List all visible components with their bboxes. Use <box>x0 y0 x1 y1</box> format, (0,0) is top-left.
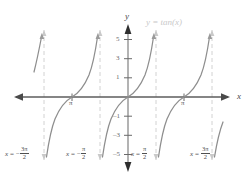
x-tick-label-pos-pi: π <box>181 100 185 107</box>
tangent-branch-far-left-tail <box>34 37 42 72</box>
asymptote-label-neg-3pi-2-numerator: 3π <box>20 146 29 153</box>
asymptote-label-neg-3pi-2-var: x <box>5 150 8 158</box>
function-label: y = tan(x) <box>146 18 182 27</box>
y-axis-arrow-down <box>125 162 132 172</box>
asymptote-label-pos-3pi-2-fraction: 3π 2 <box>201 146 210 161</box>
x-axis-arrow-left <box>14 93 23 101</box>
asymptote-label-pos-3pi-2-var: x <box>190 150 193 158</box>
asymptote-label-neg-pi-2-eq: = <box>71 150 75 158</box>
asymptote-label-pos-pi-2-denominator: 2 <box>142 153 147 161</box>
asymptote-label-pos-pi-2-fraction: π 2 <box>142 146 147 161</box>
asymptote-label-pos-pi-2: x= π 2 <box>131 146 147 161</box>
asymptote-label-neg-3pi-2-denominator: 2 <box>20 153 29 161</box>
y-tick-label-3: 3 <box>116 55 120 62</box>
asymptote-label-pos-3pi-2: x= 3π 2 <box>190 146 210 161</box>
y-tick-label-neg-1: –1 <box>113 113 120 120</box>
y-axis-arrow-up <box>125 24 132 34</box>
tangent-branch-far-right-tail <box>215 122 224 157</box>
x-axis <box>14 93 230 101</box>
y-tick-label-1: 1 <box>116 74 120 81</box>
y-tick-label-5: 5 <box>116 36 120 43</box>
asymptote-label-neg-pi-2: x=− π 2 <box>66 146 86 161</box>
asymptote-label-neg-pi-2-fraction: π 2 <box>81 146 86 161</box>
y-axis-label: y <box>125 12 129 21</box>
asymptote-label-pos-3pi-2-eq: = <box>195 150 199 158</box>
asymptote-label-pos-pi-2-eq: = <box>136 150 140 158</box>
asymptote-label-neg-pi-2-numerator: π <box>81 146 86 153</box>
x-tick-label-neg-pi: π <box>69 100 73 107</box>
tangent-graph-figure: y x y = tan(x) 5 3 1 –1 –3 –5 π π x=− 3π… <box>0 0 248 178</box>
asymptote-label-neg-3pi-2-fraction: 3π 2 <box>20 146 29 161</box>
graph-canvas <box>0 0 248 178</box>
asymptote-label-neg-3pi-2: x=− 3π 2 <box>5 146 29 161</box>
asymptote-label-pos-3pi-2-numerator: 3π <box>201 146 210 153</box>
asymptote-label-neg-pi-2-denominator: 2 <box>81 153 86 161</box>
asymptote-label-pos-pi-2-var: x <box>131 150 134 158</box>
y-tick-label-neg-3: –3 <box>113 132 120 139</box>
asymptote-label-neg-pi-2-var: x <box>66 150 69 158</box>
asymptote-label-pos-pi-2-numerator: π <box>142 146 147 153</box>
asymptote-label-pos-3pi-2-denominator: 2 <box>201 153 210 161</box>
x-axis-label: x <box>237 92 241 101</box>
asymptote-label-neg-3pi-2-eq: = <box>10 150 14 158</box>
x-axis-arrow-right <box>221 93 230 101</box>
y-tick-label-neg-5: –5 <box>113 151 120 158</box>
